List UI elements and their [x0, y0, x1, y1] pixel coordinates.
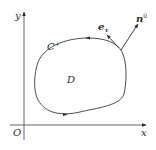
curve-label: C+ [47, 40, 60, 52]
region-label: D [66, 74, 75, 85]
region-boundary-diagram: y x O C+ D eτ n0 [0, 0, 156, 150]
normal-vector [121, 24, 138, 50]
x-axis-label: x [141, 127, 147, 138]
curve-direction-arrow-top [85, 37, 90, 40]
tangent-vector-label: eτ [98, 21, 109, 33]
normal-vector-label: n0 [136, 12, 147, 24]
origin-label: O [13, 127, 21, 138]
y-axis-label: y [14, 10, 21, 21]
